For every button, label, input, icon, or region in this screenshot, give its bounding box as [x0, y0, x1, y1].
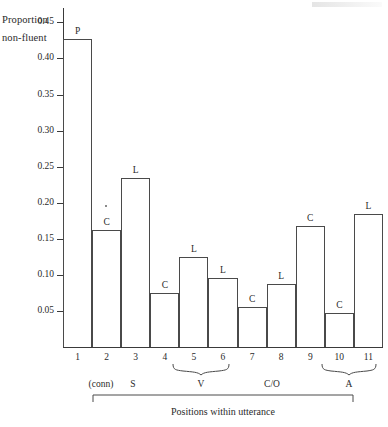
y-tick-label: 0.45 [14, 16, 54, 26]
bar [325, 313, 354, 347]
x-tick-label: 10 [325, 352, 354, 362]
bar-series: PCLCLLCLCCL [63, 8, 383, 347]
group-label-conn: (conn) [79, 379, 123, 389]
x-axis-line [63, 347, 383, 348]
x-tick-label: 9 [296, 352, 325, 362]
bar-value-label: L [354, 201, 383, 211]
x-tick-label: 11 [354, 352, 383, 362]
bar [296, 226, 325, 347]
x-tick-label: 4 [150, 352, 179, 362]
bar [267, 284, 296, 347]
x-tick-label: 8 [267, 352, 296, 362]
page-edge-artifact [312, 2, 382, 7]
bar-value-label: C [296, 213, 325, 223]
bar-value-label: C [92, 217, 121, 227]
x-axis-caption: Positions within utterance [63, 406, 383, 417]
y-tick-label: 0.15 [14, 233, 54, 243]
bar [121, 178, 150, 348]
bar-value-label: L [179, 244, 208, 254]
bar [92, 230, 121, 347]
y-tick-label: 0.20 [14, 197, 54, 207]
bar [150, 293, 179, 347]
y-tick-label: 0.40 [14, 52, 54, 62]
y-tick-label: 0.35 [14, 89, 54, 99]
bar-value-label: L [267, 271, 296, 281]
brace-v-group [171, 363, 231, 376]
chart-figure: Proportion non-fluent 0.050.100.150.200.… [0, 0, 388, 427]
bar-value-label: L [208, 265, 237, 275]
bar [63, 39, 92, 347]
x-tick-label: 2 [92, 352, 121, 362]
y-axis-title-line2: non-fluent [2, 32, 47, 43]
group-label-s: S [122, 379, 144, 389]
bar-value-label: C [325, 300, 354, 310]
y-tick-label: 0.10 [14, 269, 54, 279]
x-tick-label: 1 [63, 352, 92, 362]
bar [354, 214, 383, 347]
bar [179, 257, 208, 347]
group-label-co: C/O [252, 379, 292, 389]
bar [208, 278, 237, 347]
x-tick-label: 5 [179, 352, 208, 362]
x-tick-label: 3 [121, 352, 150, 362]
y-tick-label: 0.30 [14, 125, 54, 135]
brace-a-group [320, 363, 378, 376]
group-label-v: V [171, 379, 231, 389]
bar-value-label: P [63, 26, 92, 36]
y-tick-label: 0.25 [14, 161, 54, 171]
group-label-a: A [320, 379, 378, 389]
bar-value-label: C [238, 294, 267, 304]
bar-value-label: C [150, 280, 179, 290]
x-tick-label: 7 [238, 352, 267, 362]
y-tick-label: 0.05 [14, 305, 54, 315]
bar-value-label: L [121, 165, 150, 175]
x-tick-label: 6 [208, 352, 237, 362]
bar [238, 307, 267, 347]
stray-ink-mark [105, 205, 107, 207]
x-axis-span-bracket [92, 394, 354, 403]
